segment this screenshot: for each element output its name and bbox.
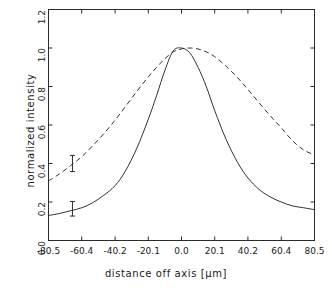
- solid-curve-error-bar: [70, 201, 75, 216]
- y-axis-ticks: [49, 10, 315, 241]
- x-tick-label: -40.2: [103, 246, 126, 256]
- x-tick-label: 80.5: [304, 246, 324, 256]
- x-tick-label: 40.2: [238, 246, 258, 256]
- y-tick-label: 0.8: [37, 87, 47, 129]
- data-series-layer: [49, 48, 315, 216]
- y-axis-title: normalized intensity: [25, 41, 36, 221]
- solid-curve: [49, 48, 315, 216]
- dashed-curve-error-bar: [70, 155, 75, 171]
- x-axis-ticks: [49, 10, 315, 241]
- y-tick-label: 0.6: [37, 125, 47, 167]
- y-tick-label: 1.2: [37, 10, 47, 52]
- y-tick-label: 0.2: [37, 202, 47, 244]
- figure-container: -80.5-60.4-40.2-20.10.020.140.260.480.5 …: [0, 0, 332, 294]
- y-tick-label: 0.4: [37, 164, 47, 206]
- y-tick-label: 1.0: [37, 48, 47, 90]
- x-axis-title: distance off axis [μm]: [0, 268, 332, 279]
- axes-frame: [49, 10, 315, 241]
- x-tick-label: 60.4: [271, 246, 291, 256]
- error-bars-layer: [70, 155, 75, 216]
- dashed-curve: [49, 48, 315, 181]
- x-tick-label: 20.1: [205, 246, 225, 256]
- x-tick-label: -60.4: [70, 246, 93, 256]
- x-tick-label: 0.0: [174, 246, 188, 256]
- x-tick-label: -20.1: [137, 246, 160, 256]
